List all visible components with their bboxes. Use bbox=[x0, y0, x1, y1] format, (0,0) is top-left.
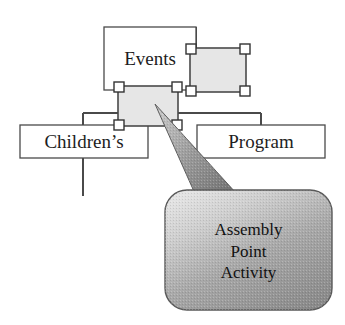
resize-handle-bottom-left-icon[interactable] bbox=[186, 86, 196, 96]
resize-handle-bottom-left-icon[interactable] bbox=[114, 120, 124, 130]
resize-handle-top-left-icon[interactable] bbox=[114, 82, 124, 92]
resize-handle-top-right-icon[interactable] bbox=[172, 82, 182, 92]
resize-handle-top-left-icon[interactable] bbox=[186, 44, 196, 54]
callout-balloon[interactable] bbox=[165, 190, 332, 310]
resize-handle-bottom-right-icon[interactable] bbox=[240, 86, 250, 96]
diagram-canvas: Events Children’s Program Assembly Point… bbox=[0, 0, 345, 325]
callout-balloon-texture bbox=[165, 190, 332, 310]
selected-shape-right-body[interactable] bbox=[190, 48, 246, 92]
selected-shape-right[interactable] bbox=[186, 44, 250, 96]
node-box-events[interactable] bbox=[104, 27, 196, 90]
resize-handle-top-right-icon[interactable] bbox=[240, 44, 250, 54]
diagram-graphics bbox=[0, 0, 345, 325]
node-box-childrens[interactable] bbox=[20, 125, 148, 158]
node-box-program[interactable] bbox=[197, 125, 325, 158]
